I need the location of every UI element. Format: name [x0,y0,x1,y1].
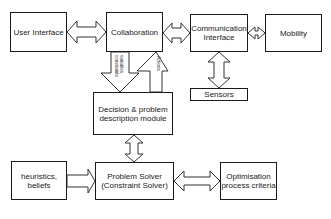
heuristics-box: heuristics, beliefs [11,161,67,200]
edge-label-variables: variables, constraints [114,55,124,77]
arrow-decision-collab [137,52,168,92]
arrow-heuristics-solver [67,169,95,193]
problem-solver-box: Problem Solver (Constraint Solver) [95,162,174,200]
decision-label-1: Decision & problem [98,105,167,114]
mobility-box: Mobility [265,14,322,52]
edge-label-actions: Actions [156,56,161,71]
collaboration-box: Collaboration [106,12,163,52]
collaboration-label: Collaboration [111,28,158,37]
mobility-label: Mobility [280,29,307,38]
communication-label-1: Communication [191,24,247,33]
edge-label-actions-text: Actions [156,56,161,71]
arrow-collab-comm [163,23,190,43]
user-interface-label: User Interface [13,28,63,37]
arrow-decision-solver [125,135,143,162]
edge-label-variables-1: variables, [119,55,124,77]
communication-interface-box: Communication Interface [190,14,248,52]
arrow-ui-collab [67,21,106,43]
communication-label-2: Interface [203,33,234,42]
sensors-label: Sensors [204,90,233,99]
sensors-box: Sensors [190,88,248,101]
decision-label-2: description module [99,114,166,123]
heuristics-label-1: heuristics, [21,172,57,181]
arrow-solver-optimisation [174,171,220,191]
problem-solver-label-1: Problem Solver [107,172,162,181]
problem-solver-label-2: (Constraint Solver) [101,181,168,190]
edge-label-variables-2: constraints [114,55,119,77]
decision-module-box: Decision & problem description module [93,92,173,135]
optimisation-label-2: process criteria [221,181,275,190]
optimisation-label-1: Optimisation [226,172,270,181]
optimisation-box: Optimisation process criteria [220,162,277,200]
user-interface-box: User Interface [10,12,67,52]
arrow-comm-sensors [208,52,230,88]
heuristics-label-2: beliefs [27,181,50,190]
arrow-comm-mobility [248,27,265,39]
